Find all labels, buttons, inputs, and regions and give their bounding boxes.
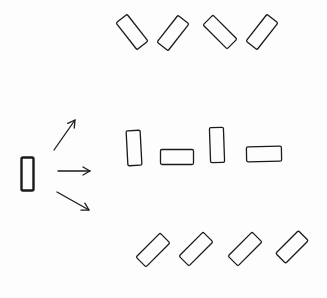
bottom-row-rect-2	[179, 232, 213, 266]
bottom-row-rect-4	[276, 231, 309, 264]
middle-row-rect-3	[209, 127, 224, 162]
middle-row	[126, 127, 282, 166]
rows-group	[116, 14, 308, 267]
top-row-rect-1	[116, 14, 148, 49]
arrows-group	[54, 120, 90, 210]
top-row-rect-4	[246, 14, 278, 49]
bottom-row-rect-3	[228, 232, 262, 266]
source-block	[22, 158, 34, 191]
diagram-canvas	[0, 0, 327, 298]
source-block-group	[22, 158, 34, 191]
middle-row-rect-2	[161, 150, 194, 165]
middle-row-rect-4	[246, 146, 281, 162]
top-row-rect-2	[157, 15, 189, 50]
middle-row-rect-1	[126, 130, 142, 166]
bottom-row	[136, 231, 308, 267]
arrow-up-icon	[54, 120, 75, 150]
bottom-row-rect-1	[136, 233, 170, 267]
top-row	[116, 14, 278, 50]
arrow-down-icon	[57, 192, 89, 210]
diagram-svg	[0, 0, 327, 298]
top-row-rect-3	[203, 15, 237, 49]
